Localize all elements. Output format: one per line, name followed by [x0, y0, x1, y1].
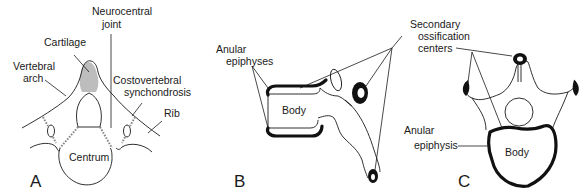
rib-left [30, 143, 60, 150]
spinal-canal-c [505, 98, 533, 126]
costovertebral-left-lower [53, 137, 56, 143]
panel-letter-b: B [234, 172, 245, 191]
leader-centers-c-left [468, 52, 472, 82]
label-arch: arch [23, 72, 44, 84]
panel-letter-a: A [30, 172, 42, 191]
costovertebral-right-lower [122, 137, 125, 143]
vertebra-ossification-figure: Neurocentral joint Cartilage Vertebral a… [0, 0, 588, 195]
leader-costovertebral [132, 103, 142, 116]
costovertebral-left-upper [43, 117, 48, 126]
panel-c: Secondary ossification centers Anular ep… [404, 18, 579, 191]
ossification-center-right-c [573, 80, 579, 96]
label-secondary: Secondary [410, 18, 461, 30]
label-synchondrosis: synchondrosis [124, 86, 191, 98]
neural-arch-c [464, 60, 576, 99]
label-neurocentral: Neurocentral [92, 5, 152, 17]
label-anular-c: Anular [404, 124, 435, 136]
label-anular-b: Anular [216, 43, 247, 55]
neurocentral-joint-right [100, 127, 112, 148]
cartilage-region [80, 62, 99, 92]
ossification-center-spinous-b-inner [371, 174, 375, 180]
panel-a: Neurocentral joint Cartilage Vertebral a… [13, 5, 191, 191]
rib-right [116, 144, 152, 152]
label-epiphyses-b: epiphyses [226, 55, 273, 67]
label-epiphysis-c: epiphysis [414, 139, 458, 151]
leader-centers-c [456, 48, 512, 56]
leader-anular-upper [252, 66, 268, 88]
costovertebral-right-upper [130, 117, 135, 126]
leader-secondary-3 [375, 48, 392, 170]
ossification-center-left-c [463, 80, 470, 96]
leader-anular-lower [252, 66, 268, 128]
ossification-center-transverse-b-inner [358, 88, 365, 98]
label-cartilage: Cartilage [44, 36, 86, 48]
leader-centers-c-body [472, 52, 502, 128]
leader-vertebral-arch [45, 80, 66, 96]
panel-b: Anular epiphyses Body B [216, 36, 402, 191]
neurocentral-joint-left [60, 127, 78, 148]
ossification-center-spinous-c-inner [517, 57, 523, 62]
label-ossification: ossification [418, 30, 470, 42]
leader-secondary-top [392, 36, 402, 48]
label-costovertebral: Costovertebral [113, 74, 181, 86]
label-centrum: Centrum [69, 151, 110, 163]
label-body-b: Body [282, 104, 307, 116]
panel-letter-c: C [458, 172, 470, 191]
rib-head-right [124, 125, 131, 137]
spinal-canal [76, 93, 101, 127]
label-centers: centers [418, 42, 452, 54]
label-rib: Rib [164, 107, 180, 119]
label-body-c: Body [505, 146, 530, 158]
transverse-process-b [328, 68, 343, 92]
rib-head-left [48, 125, 55, 137]
label-vertebral: Vertebral [13, 60, 55, 72]
label-joint: joint [101, 18, 121, 30]
leader-rib [148, 121, 162, 133]
